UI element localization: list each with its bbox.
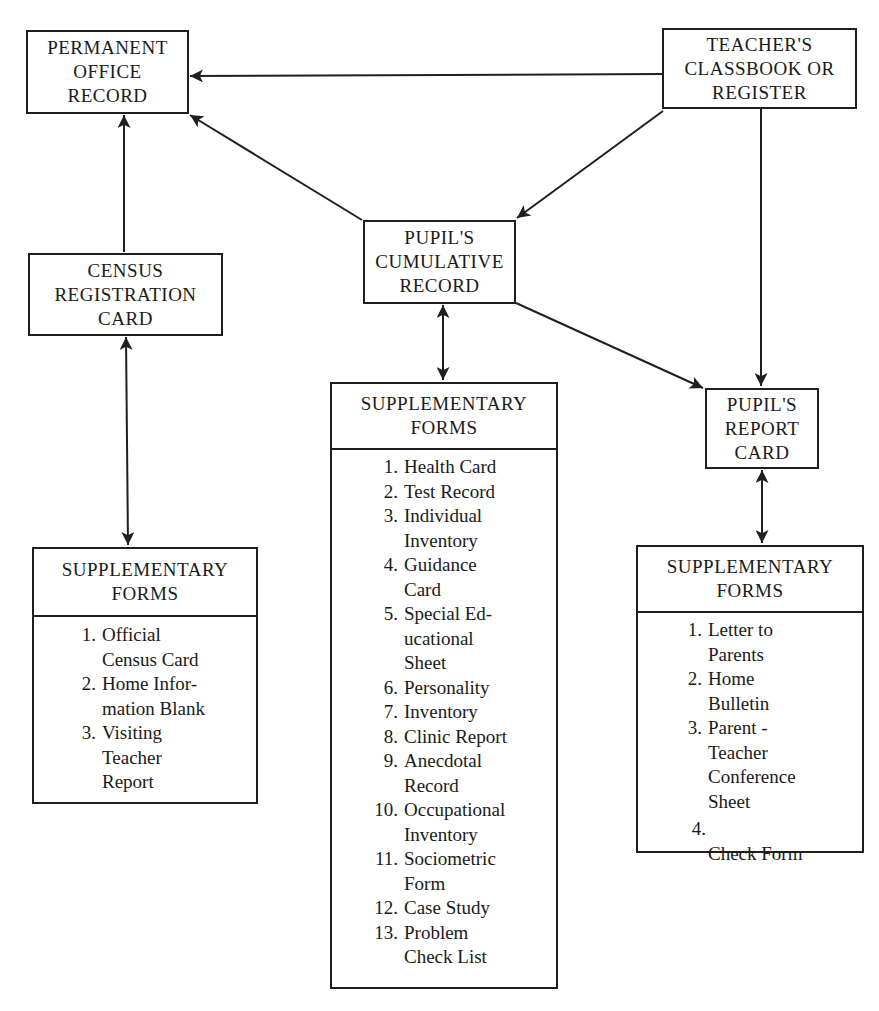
item-text: Report bbox=[102, 770, 256, 795]
list-item: 12.Case Study bbox=[404, 896, 556, 921]
item-number: 2. bbox=[366, 480, 398, 505]
label-line: OFFICE bbox=[28, 60, 187, 84]
item-text: Clinic Report bbox=[404, 725, 556, 750]
census-supplementary-forms-box: SUPPLEMENTARY FORMS 1.OfficialCensus Car… bbox=[32, 547, 258, 804]
list-item: 1.Health Card bbox=[404, 455, 556, 480]
item-text: Check Form bbox=[708, 842, 862, 867]
item-text: Teacher bbox=[102, 746, 256, 771]
supplementary-forms-header: SUPPLEMENTARY FORMS bbox=[34, 549, 256, 617]
label-line: CENSUS bbox=[30, 259, 221, 283]
supplementary-forms-header: SUPPLEMENTARY FORMS bbox=[332, 384, 556, 450]
list-item: 6.Personality bbox=[404, 676, 556, 701]
item-text: Card bbox=[404, 578, 556, 603]
supplementary-forms-title: SUPPLEMENTARY FORMS bbox=[62, 558, 229, 606]
item-text: Home bbox=[708, 667, 862, 692]
supplementary-forms-title: SUPPLEMENTARY FORMS bbox=[667, 555, 834, 603]
list-item: 11.SociometricForm bbox=[404, 847, 556, 896]
pupils-cumulative-record-label: PUPIL'S CUMULATIVE RECORD bbox=[365, 226, 514, 298]
list-item: 2.HomeBulletin bbox=[708, 667, 862, 716]
supplementary-forms-header: SUPPLEMENTARY FORMS bbox=[638, 547, 862, 613]
item-number: 4. bbox=[682, 817, 706, 842]
item-text: Health Card bbox=[404, 455, 556, 480]
item-text: Inventory bbox=[404, 700, 556, 725]
arrow-cumulative-to-report-card bbox=[516, 303, 703, 388]
list-item: 9.AnecdotalRecord bbox=[404, 749, 556, 798]
item-text: Conference bbox=[708, 765, 862, 790]
item-text: Census Card bbox=[102, 648, 256, 673]
item-text: Sheet bbox=[708, 790, 862, 815]
item-number: 3. bbox=[72, 721, 96, 746]
title-line: FORMS bbox=[62, 582, 229, 606]
item-number: 9. bbox=[366, 749, 398, 774]
item-number: 10. bbox=[366, 798, 398, 823]
report-card-forms-list: 1.Letter toParents 2.HomeBulletin 3.Pare… bbox=[638, 613, 862, 866]
pupils-report-card-box: PUPIL'S REPORT CARD bbox=[705, 388, 819, 469]
list-item: 13.ProblemCheck List bbox=[404, 921, 556, 970]
arrow-teacher-to-cumulative bbox=[517, 111, 663, 218]
label-line: RECORD bbox=[365, 274, 514, 298]
list-item: 4.GuidanceCard bbox=[404, 553, 556, 602]
census-registration-card-label: CENSUS REGISTRATION CARD bbox=[30, 259, 221, 331]
label-line: RECORD bbox=[28, 84, 187, 108]
list-item: 10.OccupationalInventory bbox=[404, 798, 556, 847]
title-line: SUPPLEMENTARY bbox=[667, 555, 834, 579]
list-item: 8.Clinic Report bbox=[404, 725, 556, 750]
item-number: 13. bbox=[366, 921, 398, 946]
census-forms-list: 1.OfficialCensus Card 2.Home Infor-matio… bbox=[34, 617, 256, 795]
item-number: 5. bbox=[366, 602, 398, 627]
title-line: SUPPLEMENTARY bbox=[62, 558, 229, 582]
pupils-cumulative-record-box: PUPIL'S CUMULATIVE RECORD bbox=[363, 220, 516, 304]
pupils-report-card-label: PUPIL'S REPORT CARD bbox=[707, 393, 817, 465]
permanent-office-record-box: PERMANENT OFFICE RECORD bbox=[26, 30, 189, 114]
label-line: CARD bbox=[30, 307, 221, 331]
item-text: Anecdotal bbox=[404, 749, 556, 774]
label-line: CARD bbox=[707, 441, 817, 465]
item-text: Record bbox=[404, 774, 556, 799]
item-number: 11. bbox=[366, 847, 398, 872]
label-line: PUPIL'S bbox=[365, 226, 514, 250]
item-text: Form bbox=[404, 872, 556, 897]
item-text: Special Ed- bbox=[404, 602, 556, 627]
supplementary-forms-title: SUPPLEMENTARY FORMS bbox=[361, 392, 528, 440]
label-line: CLASSBOOK OR bbox=[664, 57, 855, 81]
list-item: 4.Check Form bbox=[708, 817, 862, 866]
item-text: Sheet bbox=[404, 651, 556, 676]
title-line: FORMS bbox=[361, 416, 528, 440]
item-text: Home Infor- bbox=[102, 672, 256, 697]
label-line: TEACHER'S bbox=[664, 33, 855, 57]
list-item: 2.Test Record bbox=[404, 480, 556, 505]
item-text: Bulletin bbox=[708, 692, 862, 717]
list-item: 1.OfficialCensus Card bbox=[102, 623, 256, 672]
item-text: Sociometric bbox=[404, 847, 556, 872]
item-text: Case Study bbox=[404, 896, 556, 921]
item-text: Occupational bbox=[404, 798, 556, 823]
item-text: Letter to bbox=[708, 618, 862, 643]
item-text: Personality bbox=[404, 676, 556, 701]
label-line: PERMANENT bbox=[28, 36, 187, 60]
item-number: 6. bbox=[366, 676, 398, 701]
report-card-supplementary-forms-box: SUPPLEMENTARY FORMS 1.Letter toParents 2… bbox=[636, 545, 864, 853]
teachers-classbook-box: TEACHER'S CLASSBOOK OR REGISTER bbox=[662, 28, 857, 109]
item-text: Parents bbox=[708, 643, 862, 668]
item-text: Problem bbox=[404, 921, 556, 946]
item-text: Inventory bbox=[404, 823, 556, 848]
census-registration-card-box: CENSUS REGISTRATION CARD bbox=[28, 253, 223, 336]
item-number: 4. bbox=[366, 553, 398, 578]
item-text: Parent - bbox=[708, 716, 862, 741]
item-text: Individual bbox=[404, 504, 556, 529]
item-number: 2. bbox=[72, 672, 96, 697]
item-number: 12. bbox=[366, 896, 398, 921]
title-line: SUPPLEMENTARY bbox=[361, 392, 528, 416]
item-text: ucational bbox=[404, 627, 556, 652]
arrow-census-supplementary bbox=[126, 337, 128, 545]
label-line: CUMULATIVE bbox=[365, 250, 514, 274]
item-text: Official bbox=[102, 623, 256, 648]
arrow-cumulative-to-permanent bbox=[190, 115, 362, 220]
item-text: Guidance bbox=[404, 553, 556, 578]
item-number: 7. bbox=[366, 700, 398, 725]
label-line: REPORT bbox=[707, 417, 817, 441]
item-number: 1. bbox=[72, 623, 96, 648]
list-item: 3.Parent -TeacherConferenceSheet bbox=[708, 716, 862, 814]
teachers-classbook-label: TEACHER'S CLASSBOOK OR REGISTER bbox=[664, 33, 855, 105]
item-number: 1. bbox=[678, 618, 702, 643]
